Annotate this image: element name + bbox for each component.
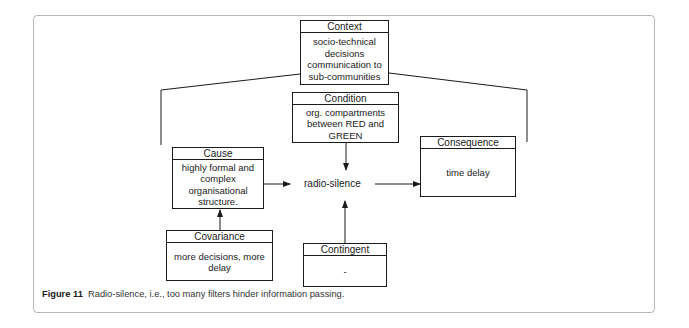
- figure-caption: Figure 11 Radio-silence, i.e., too many …: [42, 289, 344, 299]
- condition-box: Condition org. compartments between RED …: [292, 92, 399, 143]
- covariance-text: more decisions, more delay: [167, 243, 272, 281]
- cause-text: highly formal and complex organisational…: [173, 160, 263, 209]
- covariance-title: Covariance: [167, 231, 272, 243]
- condition-text: org. compartments between RED and GREEN: [293, 105, 398, 143]
- cause-box: Cause highly formal and complex organisa…: [172, 147, 264, 209]
- condition-title: Condition: [293, 93, 398, 105]
- contingent-text: -: [304, 256, 386, 287]
- caption-text: Radio-silence, i.e., too many filters hi…: [88, 289, 344, 299]
- contingent-box: Contingent -: [303, 243, 387, 287]
- caption-label: Figure 11: [42, 289, 83, 299]
- covariance-box: Covariance more decisions, more delay: [166, 230, 273, 281]
- consequence-title: Consequence: [421, 137, 515, 149]
- context-text: socio-technical decisions communication …: [301, 33, 388, 85]
- contingent-title: Contingent: [304, 244, 386, 256]
- context-box: Context socio-technical decisions commun…: [300, 20, 389, 85]
- radio-silence-label: radio-silence: [304, 178, 361, 189]
- cause-title: Cause: [173, 148, 263, 160]
- consequence-box: Consequence time delay: [420, 136, 516, 197]
- consequence-text: time delay: [421, 149, 515, 197]
- context-title: Context: [301, 21, 388, 33]
